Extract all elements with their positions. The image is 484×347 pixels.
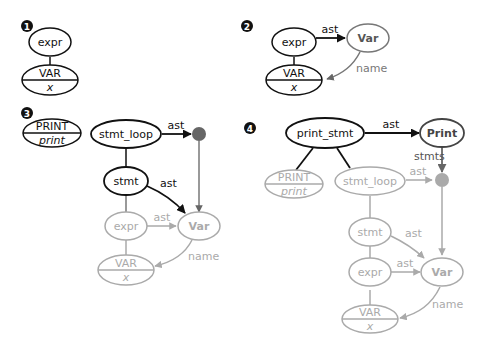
svg-text:x: x bbox=[46, 81, 54, 94]
edge-label-name: name bbox=[432, 298, 463, 311]
node-VAR-token: VAR x bbox=[266, 65, 322, 95]
edge-label-name: name bbox=[188, 250, 219, 263]
edge-label-stmts: stmts bbox=[414, 150, 445, 163]
node-Var: Var bbox=[421, 258, 463, 286]
svg-text:stmt_loop: stmt_loop bbox=[99, 128, 153, 141]
node-expr: expr bbox=[29, 28, 71, 56]
svg-text:expr: expr bbox=[38, 36, 63, 49]
node-PRINT-token: PRINT print bbox=[23, 119, 81, 147]
node-expr: expr bbox=[349, 258, 391, 286]
edge-label-ast: ast bbox=[168, 119, 185, 132]
panel-1: 1 expr VAR x bbox=[21, 20, 78, 95]
ast-construction-diagram: 1 expr VAR x 2 ast name expr bbox=[0, 0, 484, 347]
node-print-stmt: print_stmt bbox=[286, 118, 364, 148]
edge-label-ast: ast bbox=[383, 118, 400, 131]
svg-text:stmt: stmt bbox=[357, 226, 383, 239]
svg-text:print_stmt: print_stmt bbox=[297, 127, 354, 140]
svg-text:x: x bbox=[366, 320, 374, 333]
svg-text:Var: Var bbox=[189, 220, 210, 233]
node-list-dot bbox=[435, 173, 449, 187]
edge-label-ast: ast bbox=[397, 257, 414, 270]
svg-text:stmt_loop: stmt_loop bbox=[343, 175, 397, 188]
edge-label-ast: ast bbox=[154, 211, 171, 224]
panel-2: 2 ast name expr Var VAR x bbox=[241, 20, 389, 95]
svg-text:print: print bbox=[280, 185, 308, 198]
step-badge-2: 2 bbox=[241, 20, 253, 32]
svg-text:print: print bbox=[38, 134, 66, 147]
svg-text:Var: Var bbox=[432, 266, 453, 279]
svg-text:x: x bbox=[122, 271, 130, 284]
svg-text:expr: expr bbox=[282, 36, 307, 49]
edge-label-ast: ast bbox=[160, 177, 177, 190]
svg-text:x: x bbox=[290, 81, 298, 94]
node-expr: expr bbox=[105, 212, 147, 240]
svg-text:PRINT: PRINT bbox=[36, 120, 69, 133]
svg-text:PRINT: PRINT bbox=[278, 171, 311, 184]
svg-text:2: 2 bbox=[244, 22, 250, 32]
panel-3: 3 PRINT print ast ast ast name stmt_loop bbox=[21, 107, 220, 285]
step-badge-3: 3 bbox=[21, 107, 33, 119]
svg-text:VAR: VAR bbox=[283, 67, 305, 80]
node-VAR-token: VAR x bbox=[342, 305, 398, 333]
step-badge-4: 4 bbox=[244, 122, 256, 134]
node-Var: Var bbox=[347, 24, 389, 52]
node-Print: Print bbox=[420, 119, 464, 147]
edge-label-name: name bbox=[356, 62, 387, 75]
node-stmt-loop: stmt_loop bbox=[335, 167, 405, 195]
svg-text:VAR: VAR bbox=[39, 67, 61, 80]
step-badge-1: 1 bbox=[21, 20, 33, 32]
edge-label-ast: ast bbox=[322, 23, 339, 36]
node-VAR-token: VAR x bbox=[22, 65, 78, 95]
svg-text:VAR: VAR bbox=[359, 306, 381, 319]
node-Var: Var bbox=[178, 212, 220, 240]
svg-text:Var: Var bbox=[358, 32, 379, 45]
svg-text:expr: expr bbox=[358, 266, 383, 279]
node-list-dot bbox=[192, 127, 206, 141]
node-stmt-loop: stmt_loop bbox=[91, 120, 161, 148]
svg-text:3: 3 bbox=[24, 109, 30, 119]
svg-text:expr: expr bbox=[114, 220, 139, 233]
node-stmt: stmt bbox=[349, 218, 391, 246]
edge-label-ast: ast bbox=[410, 165, 427, 178]
svg-text:Print: Print bbox=[427, 127, 457, 140]
node-stmt: stmt bbox=[104, 167, 148, 195]
edge-label-ast: ast bbox=[405, 227, 422, 240]
node-VAR-token: VAR x bbox=[98, 255, 154, 285]
svg-text:4: 4 bbox=[247, 124, 253, 134]
node-PRINT-token: PRINT print bbox=[265, 170, 323, 198]
panel-4: 4 ast stmts ast ast ast name print_stmt bbox=[244, 118, 464, 333]
svg-text:1: 1 bbox=[24, 22, 30, 32]
svg-text:stmt: stmt bbox=[113, 175, 139, 188]
node-expr: expr bbox=[272, 28, 316, 56]
svg-text:VAR: VAR bbox=[115, 257, 137, 270]
